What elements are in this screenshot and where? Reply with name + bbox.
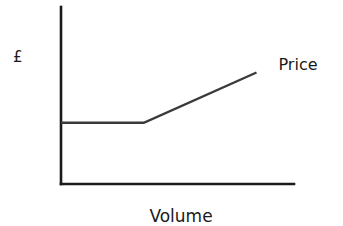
y-axis-label: £ bbox=[13, 48, 23, 66]
price-volume-chart: Price £ Volume bbox=[0, 0, 343, 226]
x-axis-label: Volume bbox=[149, 206, 212, 226]
series-layer: Price bbox=[61, 55, 318, 122]
series-label-price: Price bbox=[279, 55, 318, 74]
series-line-price bbox=[61, 72, 257, 122]
